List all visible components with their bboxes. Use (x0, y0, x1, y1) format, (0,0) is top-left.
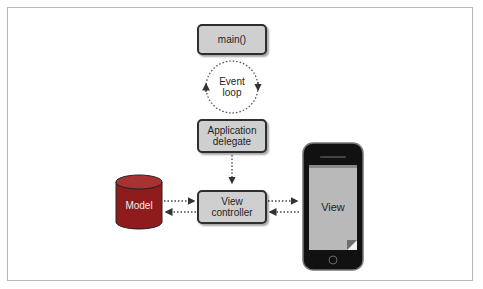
main-function-box: main() (197, 24, 267, 55)
application-delegate-box: Application delegate (197, 119, 267, 153)
event-loop-label: Event loop (212, 76, 252, 98)
main-label: main() (218, 34, 246, 45)
view-controller-box: View controller (197, 190, 267, 224)
view-label: View (309, 202, 357, 213)
model-label: Model (116, 200, 162, 211)
